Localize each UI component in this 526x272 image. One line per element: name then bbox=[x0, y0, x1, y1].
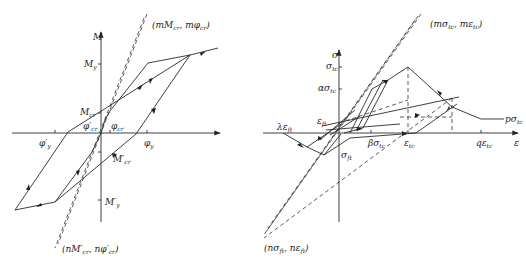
label-phi-y-prime: φ′y bbox=[39, 138, 51, 150]
axis-label-M: M bbox=[92, 32, 103, 42]
hysteresis-diagrams: M (mMcr, mφcr) My Mcr φ′cr φcr φ′y φy M′… bbox=[0, 0, 526, 272]
label-top-point: (mσtc, mεtc) bbox=[430, 19, 483, 30]
axis-label-epsilon: ε bbox=[514, 138, 519, 148]
skeleton-envelope bbox=[388, 67, 504, 119]
label-lambda-eps: λεft bbox=[276, 122, 293, 134]
label-My-prime: M′y bbox=[104, 197, 120, 209]
moment-curvature-diagram: M (mMcr, mφcr) My Mcr φ′cr φcr φ′y φy M′… bbox=[12, 14, 220, 255]
label-Mcr-prime: M′cr bbox=[112, 154, 132, 165]
label-sigma-tc: σtc bbox=[326, 61, 339, 72]
loop-upper bbox=[344, 80, 388, 133]
label-bottom-point: (nσft, nεft) bbox=[264, 243, 309, 255]
stress-strain-diagram: σ ε (mσtc, mεtc) σtc ασtc εft λεft σft β… bbox=[263, 14, 523, 255]
label-top-point: (mMcr, mφcr) bbox=[152, 20, 210, 31]
label-q-eps: qεtc bbox=[476, 138, 493, 149]
label-alpha-sigma: ασtc bbox=[318, 83, 337, 94]
label-phi-y: φy bbox=[144, 138, 154, 150]
axis-label-sigma: σ bbox=[332, 50, 339, 60]
label-eps-tc: εtc bbox=[404, 138, 415, 149]
label-p-sigma: pσtc bbox=[505, 114, 523, 125]
label-phi-cr-prime: φ′cr bbox=[83, 121, 99, 132]
skeleton-positive bbox=[101, 48, 218, 133]
label-sigma-ft: σft bbox=[341, 150, 352, 162]
label-bottom-point: (nM′cr, nφ′cr) bbox=[62, 244, 119, 255]
label-beta-sigma: βσtc bbox=[367, 138, 386, 149]
dashed-line-3 bbox=[268, 20, 415, 228]
label-eps-ft: εft bbox=[317, 116, 327, 128]
label-My: My bbox=[83, 59, 97, 71]
label-Mcr: Mcr bbox=[79, 107, 97, 118]
label-phi-cr: φcr bbox=[111, 121, 125, 132]
